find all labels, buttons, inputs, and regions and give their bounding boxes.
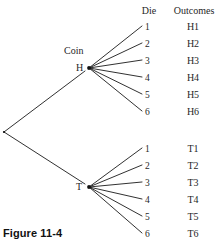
branch-line-t-1 <box>89 148 142 187</box>
fan-node-dot-t <box>87 185 91 189</box>
trunk-line-h <box>4 71 85 132</box>
branch-line-h-4 <box>89 68 142 77</box>
die-label-h-2: 2 <box>145 39 150 49</box>
outcome-label-t2: T2 <box>187 161 198 171</box>
branch-node-group <box>3 66 91 189</box>
die-label-t-6: 6 <box>145 229 150 239</box>
column-header-coin: Coin <box>64 46 83 56</box>
outcome-label-h5: H5 <box>187 90 199 100</box>
outcome-label-t6: T6 <box>187 229 198 239</box>
figure-caption: Figure 11-4 <box>3 228 62 239</box>
outcome-label-t5: T5 <box>187 212 198 222</box>
die-label-h-1: 1 <box>145 22 150 32</box>
die-label-t-3: 3 <box>145 178 150 188</box>
die-label-t-2: 2 <box>145 161 150 171</box>
branch-line-t-6 <box>89 187 142 233</box>
outcome-label-t3: T3 <box>187 178 198 188</box>
die-label-t-1: 1 <box>145 144 150 154</box>
branch-line-t-5 <box>89 187 142 216</box>
branch-line-h-5 <box>89 68 142 94</box>
trunk-line-t <box>4 132 85 184</box>
outcome-label-h1: H1 <box>187 22 199 32</box>
branch-line-group <box>4 26 142 233</box>
outcome-label-h2: H2 <box>187 39 199 49</box>
column-header-outcomes: Outcomes <box>174 6 215 16</box>
stage1-node-label-t: T <box>76 182 82 192</box>
outcome-label-h4: H4 <box>187 73 199 83</box>
branch-line-t-3 <box>89 182 142 187</box>
fan-node-dot-h <box>87 66 91 70</box>
branch-line-t-2 <box>89 165 142 187</box>
die-label-h-5: 5 <box>145 90 150 100</box>
die-label-t-5: 5 <box>145 212 150 222</box>
outcome-label-t1: T1 <box>187 144 198 154</box>
column-header-die: Die <box>142 6 156 16</box>
branch-line-h-6 <box>89 68 142 111</box>
outcome-label-t4: T4 <box>187 195 198 205</box>
die-label-t-4: 4 <box>145 195 150 205</box>
die-label-h-4: 4 <box>145 73 150 83</box>
stage1-node-label-h: H <box>76 63 83 73</box>
figure-tree-diagram: Coin Die Outcomes H1H12H23H34H45H56H6T1T… <box>0 0 224 242</box>
outcome-label-h6: H6 <box>187 107 199 117</box>
outcome-label-h3: H3 <box>187 56 199 66</box>
die-label-h-3: 3 <box>145 56 150 66</box>
branch-line-t-4 <box>89 187 142 199</box>
tree-diagram-lines <box>0 0 224 242</box>
root-node-dot <box>3 131 5 133</box>
die-label-h-6: 6 <box>145 107 150 117</box>
